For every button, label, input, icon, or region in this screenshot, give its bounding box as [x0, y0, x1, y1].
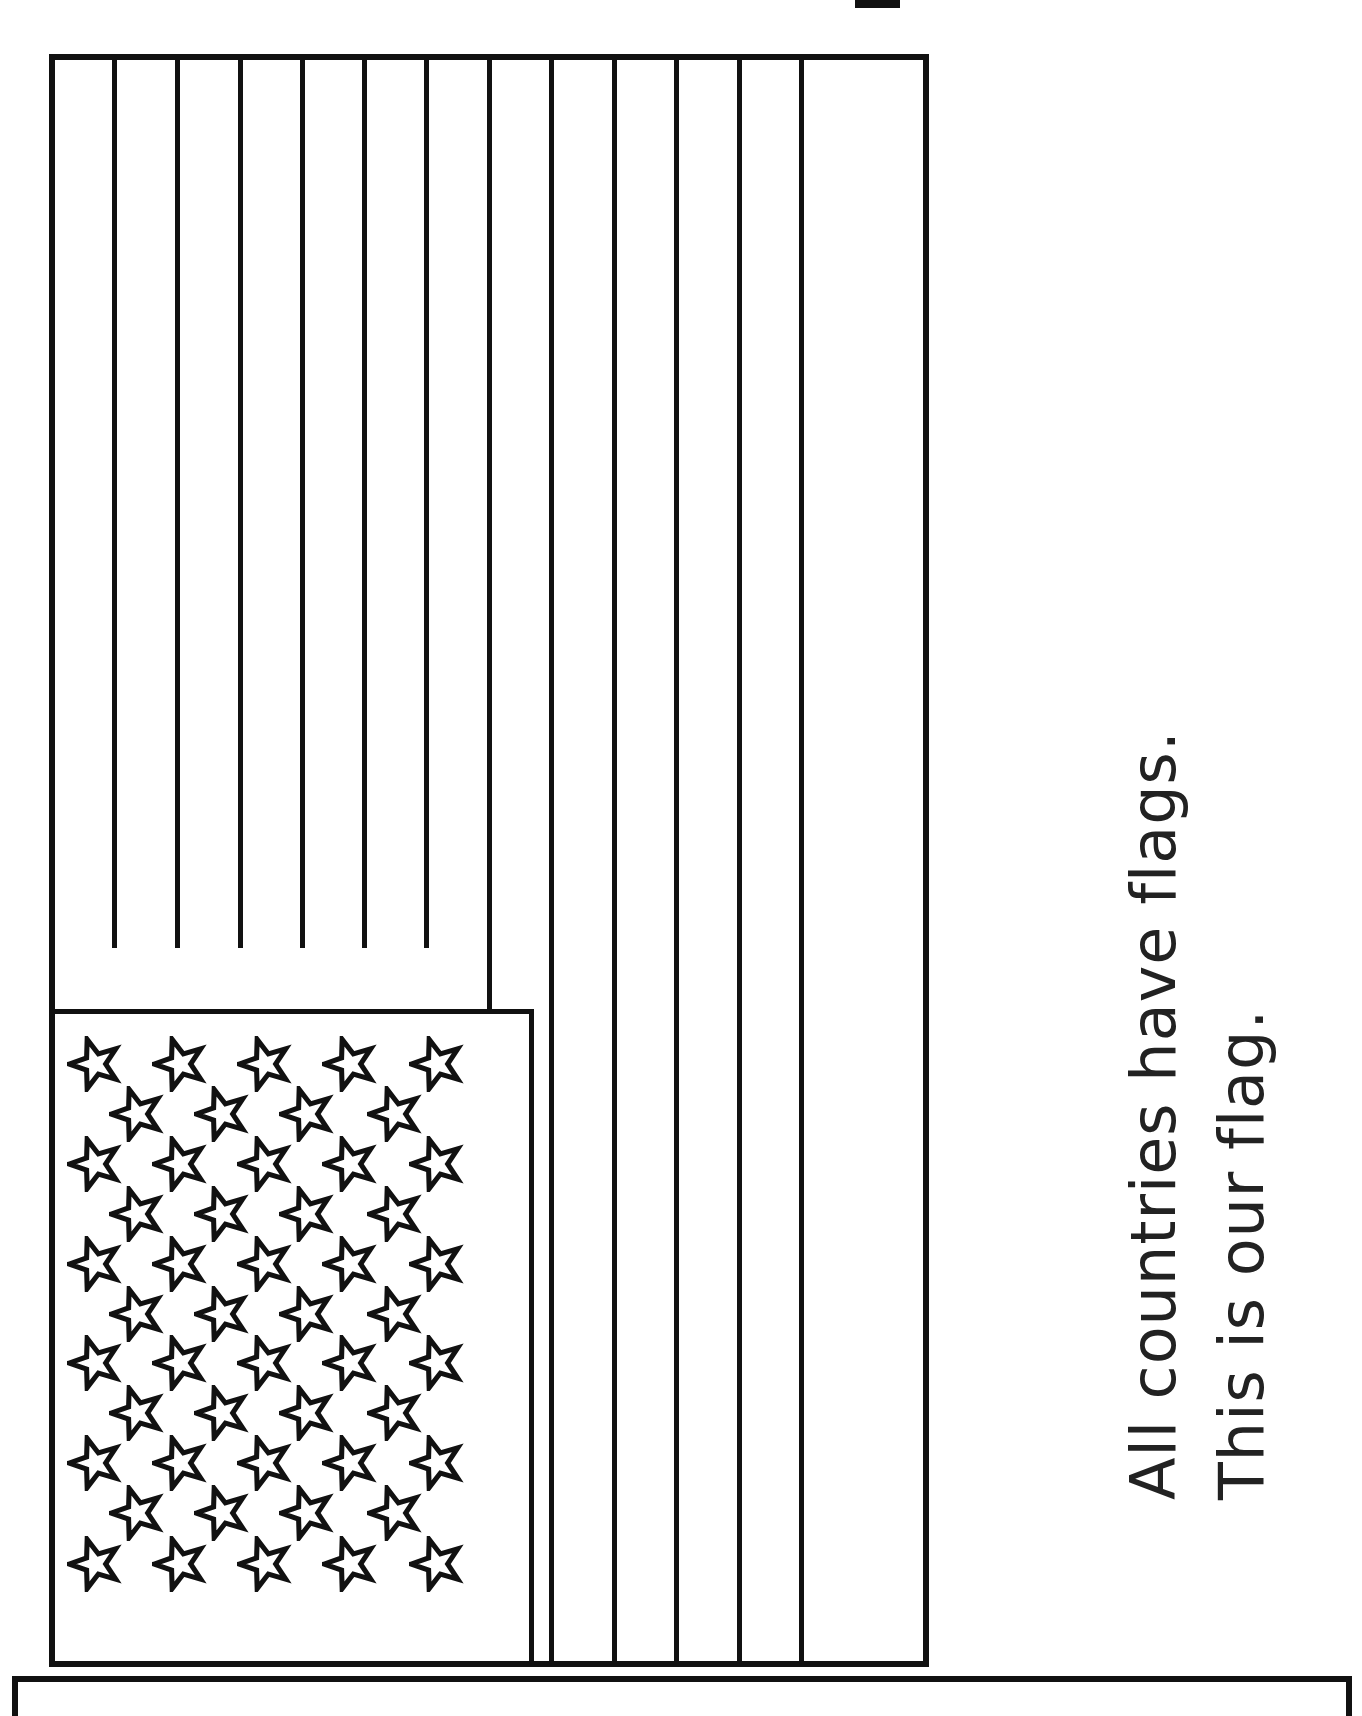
star-icon: [237, 1136, 293, 1192]
star-icon: [152, 1236, 208, 1292]
stripe-divider: [799, 60, 804, 1661]
union-canton: [55, 1009, 534, 1661]
stripe-divider: [175, 60, 180, 948]
star-icon: [279, 1186, 335, 1242]
stripe-divider: [300, 60, 305, 948]
stripe-divider: [424, 60, 429, 948]
flag-outline: [49, 54, 929, 1667]
star-icon: [67, 1136, 123, 1192]
star-icon: [152, 1335, 208, 1391]
stripe-divider: [238, 60, 243, 948]
star-icon: [152, 1036, 208, 1092]
stripe-divider: [737, 60, 742, 1661]
star-icon: [367, 1286, 423, 1342]
stripe-divider: [362, 60, 367, 948]
star-icon: [409, 1236, 465, 1292]
star-icon: [67, 1536, 123, 1592]
star-icon: [409, 1136, 465, 1192]
star-icon: [67, 1435, 123, 1491]
star-icon: [279, 1385, 335, 1441]
star-icon: [409, 1036, 465, 1092]
star-icon: [367, 1385, 423, 1441]
star-icon: [367, 1086, 423, 1142]
star-icon: [409, 1536, 465, 1592]
star-icon: [237, 1536, 293, 1592]
star-icon: [322, 1036, 378, 1092]
star-icon: [367, 1186, 423, 1242]
star-icon: [67, 1236, 123, 1292]
star-icon: [322, 1236, 378, 1292]
star-icon: [152, 1536, 208, 1592]
star-icon: [322, 1136, 378, 1192]
stripe-divider: [112, 60, 117, 948]
star-icon: [279, 1286, 335, 1342]
star-icon: [237, 1036, 293, 1092]
star-icon: [367, 1485, 423, 1541]
star-icon: [194, 1086, 250, 1142]
star-icon: [194, 1485, 250, 1541]
star-icon: [152, 1136, 208, 1192]
star-icon: [194, 1385, 250, 1441]
star-icon: [109, 1086, 165, 1142]
writing-box: [12, 1676, 1352, 1716]
star-icon: [67, 1036, 123, 1092]
star-icon: [109, 1485, 165, 1541]
star-icon: [237, 1236, 293, 1292]
star-icon: [409, 1435, 465, 1491]
star-icon: [279, 1485, 335, 1541]
star-icon: [322, 1335, 378, 1391]
star-icon: [109, 1186, 165, 1242]
star-icon: [109, 1286, 165, 1342]
star-icon: [237, 1435, 293, 1491]
caption: All countries have flags. This is our fl…: [1110, 730, 1286, 1500]
star-icon: [409, 1335, 465, 1391]
star-icon: [237, 1335, 293, 1391]
star-icon: [194, 1286, 250, 1342]
title-fragment: [855, 0, 900, 8]
star-icon: [194, 1186, 250, 1242]
star-icon: [322, 1435, 378, 1491]
star-icon: [279, 1086, 335, 1142]
star-icon: [67, 1335, 123, 1391]
star-icon: [322, 1536, 378, 1592]
star-icon: [152, 1435, 208, 1491]
stripe-divider: [612, 60, 617, 1661]
caption-line-2: This is our flag.: [1198, 730, 1286, 1500]
stripe-divider: [549, 60, 554, 1661]
stripe-divider: [674, 60, 679, 1661]
star-icon: [109, 1385, 165, 1441]
caption-line-1: All countries have flags.: [1110, 730, 1198, 1500]
